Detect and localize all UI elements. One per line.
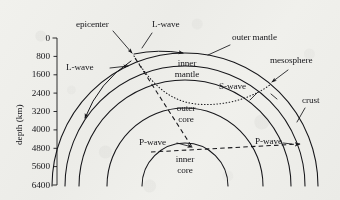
axis-tick-label-4800: 4800 xyxy=(2,144,50,153)
outer-core-label-line1: outer xyxy=(162,104,210,114)
seismic-wave-diagram: depth (km) 0 800 1600 2400 3200 4000 480… xyxy=(0,0,340,200)
mesosphere-leader xyxy=(272,70,288,82)
s-wave-label: S-wave xyxy=(219,82,246,92)
inner-mantle-label-line1: inner xyxy=(163,59,211,69)
axis-tick-label-2400: 2400 xyxy=(2,89,50,98)
l-wave-top-leader xyxy=(142,33,152,48)
mesosphere-label: mesosphere xyxy=(270,56,312,66)
axis-tick-label-0: 0 xyxy=(2,34,50,43)
axis-tick-label-4000: 4000 xyxy=(2,125,50,134)
epicenter-leader xyxy=(113,31,132,53)
epicenter-label: epicenter xyxy=(76,20,109,30)
axis-tick-label-3200: 3200 xyxy=(2,107,50,116)
outer-core-label-line2: core xyxy=(162,115,210,125)
depth-axis-group xyxy=(53,38,58,185)
l-wave-left-label: L-wave xyxy=(66,63,93,73)
mesosphere-bracket-mark xyxy=(271,94,277,99)
outer-mantle-label: outer mantle xyxy=(232,33,277,43)
l-wave-top-label: L-wave xyxy=(152,20,179,30)
p-wave-left-label: P-wave xyxy=(139,138,166,148)
inner-mantle-label-line2: mantle xyxy=(163,70,211,80)
axis-tick-label-800: 800 xyxy=(2,52,50,61)
axis-tick-label-6400: 6400 xyxy=(2,181,50,190)
inner-core-label-line2: core xyxy=(161,166,209,176)
s-wave-leader xyxy=(250,92,258,100)
p-wave-right-label: P-wave xyxy=(255,137,282,147)
crust-label: crust xyxy=(302,96,319,106)
inner-core-label-line1: inner xyxy=(161,155,209,165)
axis-tick-label-5600: 5600 xyxy=(2,162,50,171)
axis-tick-label-1600: 1600 xyxy=(2,70,50,79)
p-wave-right-leader xyxy=(283,143,292,144)
outer-mantle-leader xyxy=(208,45,230,55)
